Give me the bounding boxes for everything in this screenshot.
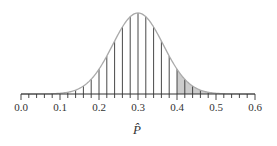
tick-label: 0.1	[53, 101, 67, 113]
tick-label: 0.6	[248, 101, 262, 113]
tick-label: 0.2	[92, 101, 106, 113]
x-axis	[21, 94, 255, 100]
shaded-area	[177, 69, 216, 94]
x-tick-labels: 0.00.10.20.30.40.50.6	[14, 101, 262, 113]
tick-label: 0.0	[14, 101, 28, 113]
tick-label: 0.5	[209, 101, 223, 113]
normal-distribution-chart: 0.00.10.20.30.40.50.6 P̂	[0, 0, 277, 146]
tick-label: 0.3	[131, 101, 145, 113]
x-axis-title: P̂	[132, 122, 141, 137]
tick-label: 0.4	[170, 101, 184, 113]
shaded-tail-region	[177, 69, 216, 94]
